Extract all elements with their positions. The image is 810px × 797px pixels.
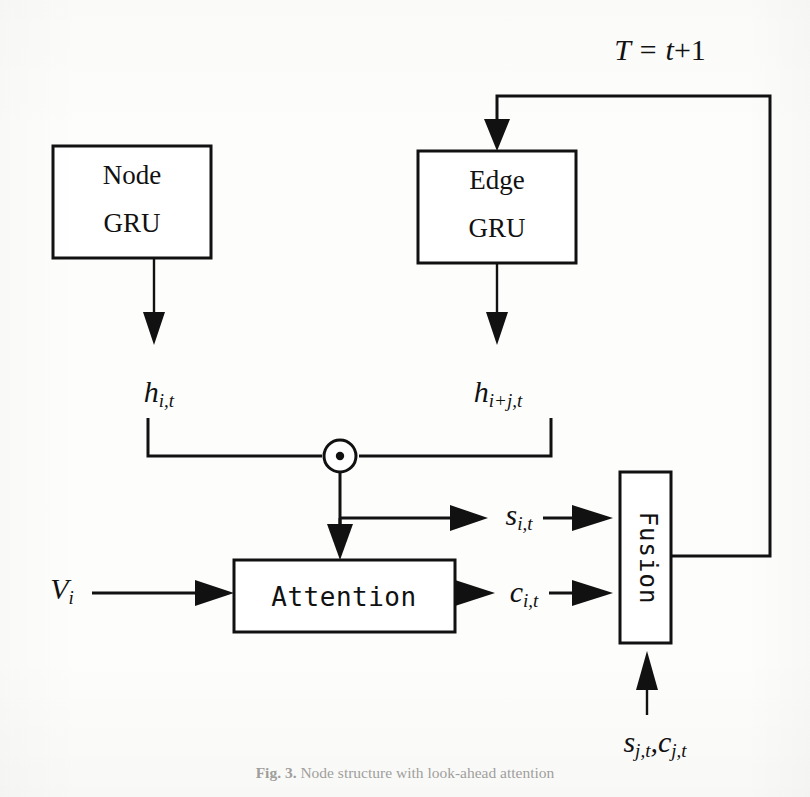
arrowhead-into-edge-gru <box>484 119 510 151</box>
edge-edge-gru-to-h-edge <box>486 263 508 345</box>
fusion-label: Fusion <box>634 512 662 605</box>
figure-caption-label: Fig. 3. <box>256 764 297 781</box>
edge-node-gru-to-h-node <box>143 258 165 345</box>
arrowhead-to-c-label <box>455 580 495 606</box>
h-node-label: hi,t <box>144 375 175 411</box>
element-wise-product-icon <box>324 440 356 472</box>
arrowhead-to-s-label <box>450 505 488 531</box>
figure-canvas: T = t+1 Node GRU Edge GRU hi,t <box>0 0 810 797</box>
arrowhead-neighbor-into-fusion <box>636 651 658 690</box>
figure-caption-text: Node structure with look-ahead attention <box>300 764 554 781</box>
neighbor-input-label: sj,t,cj,t <box>623 725 687 761</box>
edge-attention-to-c <box>455 580 495 606</box>
edge-gru-label-line2: GRU <box>468 213 525 243</box>
edge-v-to-attention <box>92 580 234 606</box>
node-gru-box[interactable]: Node GRU <box>53 146 211 258</box>
edge-c-to-fusion <box>549 580 613 606</box>
edge-neighbor-to-fusion <box>636 651 658 715</box>
figure-caption-region: Fig. 3. Node structure with look-ahead a… <box>0 764 810 797</box>
node-structure-diagram: T = t+1 Node GRU Edge GRU hi,t <box>0 0 810 797</box>
s-out-label: si,t <box>506 498 534 534</box>
c-out-label: ci,t <box>510 575 539 611</box>
figure-caption: Fig. 3. Node structure with look-ahead a… <box>0 764 810 782</box>
arrowhead-into-attention-top <box>327 524 353 560</box>
h-edge-label: hi+j,t <box>474 375 523 411</box>
arrowhead-c-into-fusion <box>572 580 613 606</box>
edge-hadamard-to-attention <box>327 518 353 560</box>
node-gru-label-line2: GRU <box>103 208 160 238</box>
edge-hadamard-to-s <box>340 505 488 531</box>
node-gru-label-line1: Node <box>103 160 161 190</box>
timestep-label: T = t+1 <box>614 33 706 66</box>
attention-box[interactable]: Attention <box>234 560 455 632</box>
attention-label: Attention <box>271 582 416 612</box>
arrowhead-node-gru-down <box>143 312 165 345</box>
edge-s-to-fusion <box>543 505 613 531</box>
edge-gru-label-line1: Edge <box>469 165 524 195</box>
v-input-label: Vi <box>50 572 74 608</box>
arrowhead-s-into-fusion <box>572 505 613 531</box>
arrowhead-edge-gru-down <box>486 312 508 345</box>
edge-gru-box[interactable]: Edge GRU <box>418 151 576 263</box>
arrowhead-v-into-attention <box>195 580 234 606</box>
fusion-box[interactable]: Fusion <box>620 472 671 643</box>
